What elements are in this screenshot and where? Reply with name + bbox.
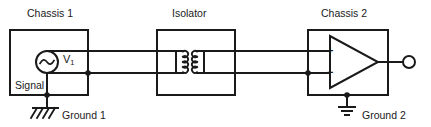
junction-dot-ground1-tap <box>44 92 50 98</box>
chassis-2-label: Chassis 2 <box>321 8 367 19</box>
opamp-plus-input-label: + <box>327 45 333 56</box>
ground-1-label: Ground 1 <box>62 110 106 121</box>
source-voltage-label: V1 <box>63 54 75 65</box>
circuit-diagram: Chassis 1 Isolator Chassis 2 Signal Grou… <box>0 0 431 127</box>
transformer-primary-coil <box>183 51 188 73</box>
output-terminal-circle <box>403 56 415 68</box>
isolator-label: Isolator <box>172 8 206 19</box>
opamp-minus-input-label: − <box>327 67 333 78</box>
opamp-triangle <box>330 36 378 88</box>
earth-ground-symbol <box>339 107 355 115</box>
chassis-1-label: Chassis 1 <box>27 8 73 19</box>
source-voltage-subscript: 1 <box>70 58 74 67</box>
junction-dot-amp-input <box>305 70 311 76</box>
junction-dot-signal-hot <box>85 70 91 76</box>
junction-dot-ground2-tap <box>344 92 350 98</box>
chassis-ground-symbol <box>31 108 58 118</box>
signal-label: Signal <box>15 80 44 91</box>
ground-2-label: Ground 2 <box>362 110 406 121</box>
transformer-secondary-coil <box>192 51 197 73</box>
